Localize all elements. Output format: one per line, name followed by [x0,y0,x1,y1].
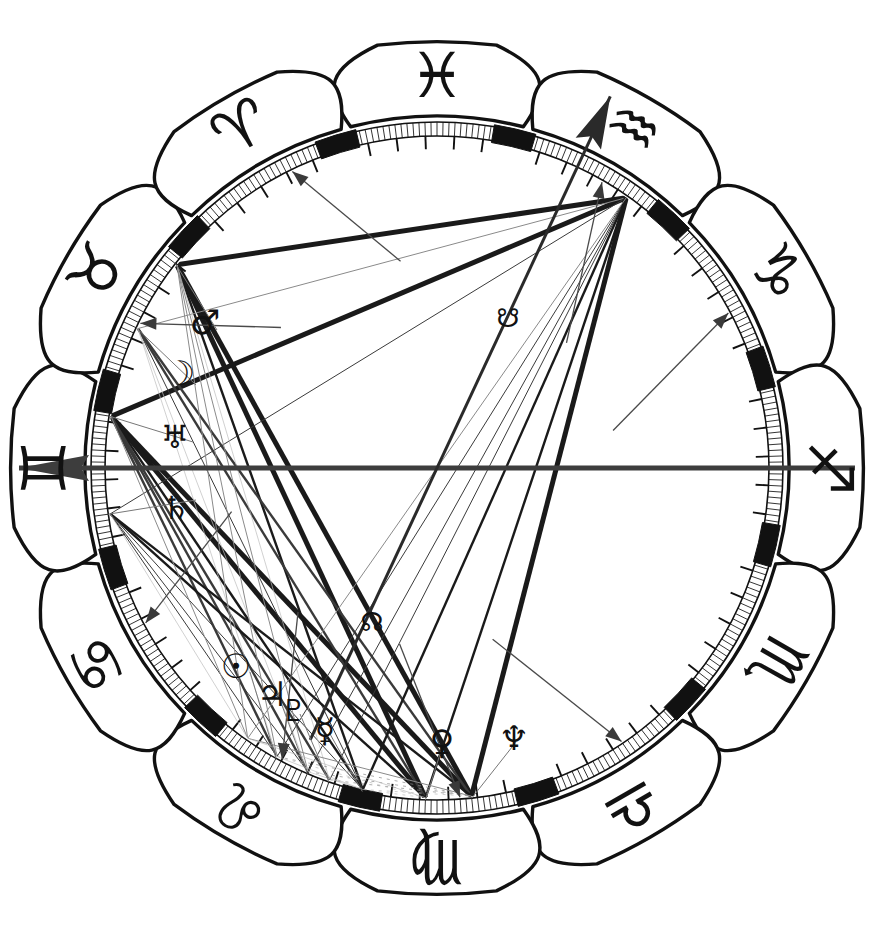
degree-tick-minor [219,199,228,210]
degree-tick-minor [477,798,479,812]
sign-glyph-pisces[interactable]: ♓ [409,39,465,112]
degree-tick-major [129,587,141,592]
degree-tick-minor [126,316,139,322]
degree-tick-minor [229,733,237,744]
cusp-pointer-arrowhead [140,318,156,330]
degree-tick-minor [259,171,266,183]
house-cusp-marker[interactable] [491,125,535,152]
degree-tick-minor [768,491,782,492]
natal-chart-wheel[interactable]: ♓♒♑♐♏♎♍♌♋♊♉♈ ♂☽♅♄☉♃♇☿♀♆☋☊ [0,0,875,937]
degree-tick-minor [210,207,219,218]
degree-tick-major [749,399,762,402]
degree-tick-minor [738,322,751,328]
degree-tick-minor [100,543,114,546]
degree-tick-minor [132,306,144,313]
degree-tick-minor [291,769,297,782]
cusp-pointer-line [613,313,728,431]
planet-glyph-uranus[interactable]: ♅ [161,418,190,456]
degree-tick-minor [764,408,778,410]
planet-glyph-sun[interactable]: ☉ [221,646,251,686]
degree-tick-minor [745,592,758,597]
degree-tick-minor [727,629,739,636]
degree-tick-minor [383,126,385,140]
degree-tick-minor [164,672,175,681]
house-cusp-marker[interactable] [94,369,121,413]
sign-glyph-virgo[interactable]: ♍ [409,825,465,898]
degree-tick-minor [116,338,129,343]
degree-tick-minor [545,141,550,154]
degree-tick-minor [119,333,132,338]
degree-tick-major [391,784,393,797]
degree-tick-minor [413,123,414,137]
degree-tick-minor [722,639,734,646]
planet-glyph-moon[interactable]: ☽ [165,353,195,393]
degree-tick-minor [767,503,781,504]
degree-tick-minor [760,390,774,393]
degree-tick-minor [733,619,745,625]
natal-chart-root: ♓♒♑♐♏♎♍♌♋♊♉♈ ♂☽♅♄☉♃♇☿♀♆☋☊ [0,0,875,937]
sign-glyph-gemini[interactable]: ♊ [8,440,81,496]
planet-glyph-neptune[interactable]: ♆ [499,718,529,758]
degree-tick-minor [688,241,699,250]
degree-tick-major [756,485,769,486]
degree-tick-minor [172,681,183,690]
degree-tick-minor [249,178,257,190]
degree-tick-minor [234,737,242,748]
degree-tick-minor [92,438,106,439]
planet-glyph-south-node[interactable]: ☋ [496,303,519,333]
sign-glyph-sagittarius[interactable]: ♐ [794,440,867,496]
degree-tick-minor [753,571,766,575]
degree-tick-major [633,206,641,216]
degree-tick-minor [618,178,626,190]
degree-tick-minor [632,188,640,199]
degree-tick-minor [747,587,760,592]
degree-tick-minor [291,154,297,167]
planet-glyph-saturn[interactable]: ♄ [162,489,191,527]
degree-tick-major [107,507,120,509]
degree-tick-minor [715,649,727,657]
degree-tick-minor [97,531,111,534]
degree-tick-minor [743,333,756,338]
planet-glyph-north-node[interactable]: ☊ [360,607,383,637]
degree-tick-minor [767,508,781,510]
degree-tick-minor [244,181,252,193]
degree-tick-minor [769,450,783,451]
degree-tick-minor [608,171,615,183]
degree-tick-minor [768,438,782,439]
degree-tick-minor [91,450,105,451]
degree-tick-minor [489,126,491,140]
degree-tick-minor [618,746,626,758]
planet-glyph-pluto[interactable]: ♇ [281,693,308,728]
degree-tick-minor [413,799,414,813]
degree-tick-minor [91,485,105,486]
degree-tick-minor [249,746,257,758]
degree-tick-minor [719,644,731,651]
planet-glyph-mercury[interactable]: ☿ [315,710,336,750]
degree-tick-minor [154,658,165,666]
planet-glyph-mars[interactable]: ♂ [190,302,220,342]
degree-tick-minor [275,163,282,175]
degree-tick-minor [119,598,132,603]
cusp-pointer-arrowhead [449,780,460,797]
degree-tick-major [313,160,318,172]
degree-tick-minor [706,265,717,273]
degree-tick-minor [154,270,165,278]
degree-tick-major [503,780,506,793]
planet-glyph-venus[interactable]: ♀ [430,722,455,762]
degree-tick-minor [96,526,110,528]
degree-tick-minor [92,497,106,498]
degree-tick-minor [269,165,276,177]
degree-tick-minor [627,185,635,196]
degree-tick-minor [395,798,397,812]
degree-tick-minor [365,130,368,144]
house-cusp-marker[interactable] [753,522,780,566]
degree-tick-major [629,723,637,733]
degree-tick-minor [466,799,467,813]
degree-tick-minor [632,737,640,748]
aspect-line [277,198,626,757]
degree-tick-minor [180,690,190,699]
degree-tick-minor [567,150,572,163]
degree-tick-minor [655,719,664,730]
degree-tick-major [144,312,155,318]
degree-tick-minor [264,756,271,768]
